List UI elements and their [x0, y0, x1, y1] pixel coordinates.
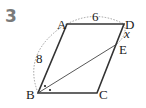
label-length-ab: 8 [36, 51, 43, 66]
label-c: C [99, 87, 108, 102]
parallelogram-abcd [38, 24, 124, 93]
label-b: B [26, 87, 35, 102]
label-x: x [123, 26, 130, 41]
label-length-ad: 6 [92, 9, 99, 24]
angle-mark-1 [44, 85, 46, 87]
label-e: E [119, 42, 127, 57]
parallelogram-diagram: A D B C E x 6 8 [0, 0, 146, 108]
label-a: A [57, 17, 67, 32]
bisector-be [38, 44, 117, 93]
angle-mark-2 [49, 89, 51, 91]
